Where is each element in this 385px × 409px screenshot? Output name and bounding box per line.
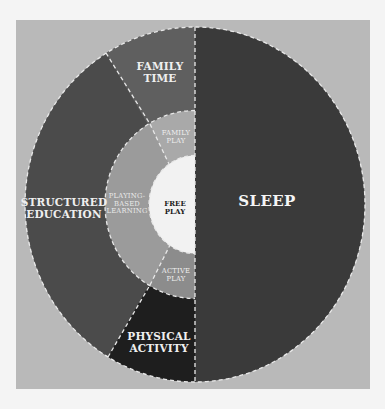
label-family-play: FAMILY PLAY (162, 130, 190, 145)
label-line: PLAY (162, 138, 190, 146)
label-structured-education: STRUCTURED EDUCATION (21, 197, 107, 221)
label-line: LEARNING (106, 208, 147, 216)
label-sleep: SLEEP (238, 193, 296, 210)
label-line: PLAY (164, 208, 185, 216)
label-line: STRUCTURED (21, 197, 107, 209)
label-free-play: FREE PLAY (164, 200, 185, 216)
label-physical-activity: PHYSICAL ACTIVITY (127, 331, 190, 355)
label-line: FAMILY (137, 61, 184, 73)
label-line: TIME (137, 73, 184, 85)
label-line: ACTIVITY (127, 343, 190, 355)
label-active-play: ACTIVE PLAY (162, 268, 190, 283)
label-family-time: FAMILY TIME (137, 61, 184, 85)
label-line: SLEEP (238, 193, 296, 210)
label-line: PLAY (162, 276, 190, 284)
label-line: PHYSICAL (127, 331, 190, 343)
label-playing-based-learning: PLAYING- BASED LEARNING (106, 193, 147, 216)
label-line: EDUCATION (21, 209, 107, 221)
